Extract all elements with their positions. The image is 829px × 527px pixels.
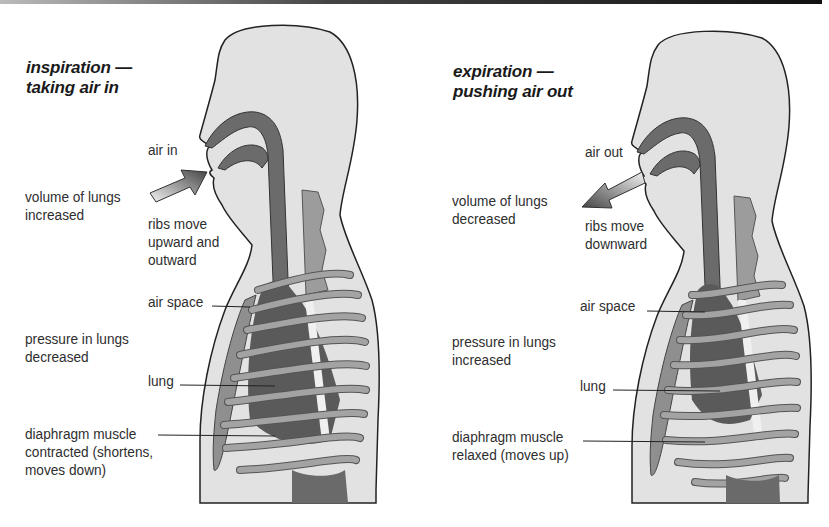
- label-line: diaphragm muscle: [25, 425, 153, 443]
- lung-label: lung: [148, 372, 174, 390]
- ribs-label: ribs move downward: [585, 217, 647, 253]
- label-line: ribs move: [585, 217, 647, 235]
- label-line: volume of lungs: [25, 188, 121, 206]
- label-line: volume of lungs: [452, 192, 548, 210]
- label-line: upward and: [148, 233, 219, 251]
- air-in-arrow-icon: [150, 170, 207, 202]
- pressure-label: pressure in lungs decreased: [25, 330, 129, 366]
- ribs-label: ribs move upward and outward: [148, 215, 219, 269]
- label-line: ribs move: [148, 215, 219, 233]
- air-space-label: air space: [580, 297, 635, 315]
- label-line: pressure in lungs: [25, 330, 129, 348]
- label-line: moves down): [25, 461, 153, 479]
- label-line: downward: [585, 235, 647, 253]
- label-line: diaphragm muscle: [452, 428, 569, 446]
- label-line: increased: [452, 351, 556, 369]
- volume-label: volume of lungs increased: [25, 188, 121, 224]
- pressure-label: pressure in lungs increased: [452, 333, 556, 369]
- air-out-arrow-icon: [582, 172, 645, 208]
- lung-label: lung: [580, 377, 606, 395]
- label-line: pressure in lungs: [452, 333, 556, 351]
- label-line: increased: [25, 206, 121, 224]
- label-line: decreased: [25, 348, 129, 366]
- air-in-label: air in: [148, 141, 178, 159]
- label-line: contracted (shortens,: [25, 443, 153, 461]
- air-space-label: air space: [148, 293, 203, 311]
- label-line: decreased: [452, 210, 548, 228]
- diaphragm-label: diaphragm muscle contracted (shortens, m…: [25, 425, 153, 479]
- air-out-label: air out: [585, 143, 623, 161]
- diaphragm-label: diaphragm muscle relaxed (moves up): [452, 428, 569, 464]
- label-line: relaxed (moves up): [452, 446, 569, 464]
- volume-label: volume of lungs decreased: [452, 192, 548, 228]
- label-line: outward: [148, 251, 219, 269]
